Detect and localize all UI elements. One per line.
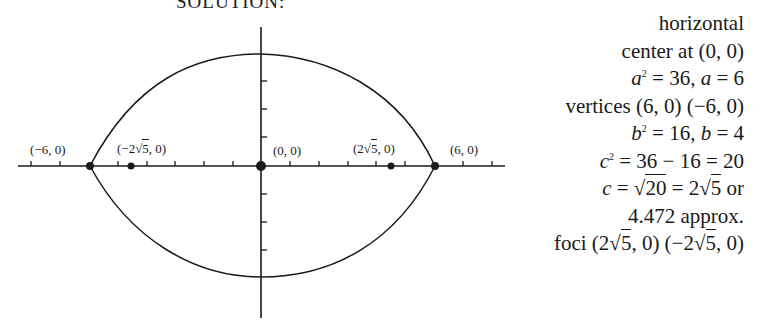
note-a: a2 = 36, a = 6 [554, 65, 744, 93]
note-c: c = √20 = 2√5 or [554, 175, 744, 203]
ellipse-graph [0, 0, 520, 330]
focus-pos-dot [388, 163, 395, 170]
sqrt-symbol: √5 [694, 230, 716, 258]
focus-neg-dot [128, 163, 135, 170]
label-neg-focus: (−2√5, 0) [117, 141, 166, 157]
sqrt-symbol: √5 [364, 141, 378, 157]
note-approx: 4.472 approx. [554, 203, 744, 231]
label-origin: (0, 0) [273, 143, 301, 159]
sqrt-symbol: √20 [634, 175, 667, 203]
note-c-squared: c2 = 36 − 16 = 20 [554, 148, 744, 176]
note-orientation: horizontal [554, 10, 744, 38]
solution-notes: horizontal center at (0, 0) a2 = 36, a =… [554, 10, 744, 258]
label-pos-vertex: (6, 0) [450, 142, 478, 158]
note-b: b2 = 16, b = 4 [554, 120, 744, 148]
note-foci: foci (2√5, 0) (−2√5, 0) [554, 230, 744, 258]
note-center: center at (0, 0) [554, 38, 744, 66]
note-vertices: vertices (6, 0) (−6, 0) [554, 93, 744, 121]
sqrt-symbol: √5 [609, 230, 631, 258]
sqrt-symbol: √5 [135, 141, 149, 157]
vertex-pos-dot [431, 162, 439, 170]
vertex-neg-dot [86, 162, 94, 170]
sqrt-symbol: √5 [699, 175, 721, 203]
label-neg-vertex: (−6, 0) [30, 142, 66, 158]
label-pos-focus: (2√5, 0) [353, 141, 395, 157]
origin-dot [256, 161, 266, 171]
